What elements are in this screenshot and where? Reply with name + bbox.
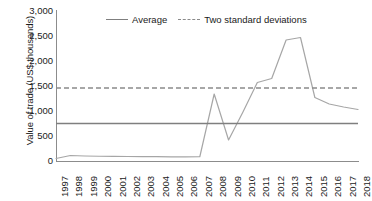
x-tick-label: 2018 bbox=[362, 176, 372, 197]
x-tick-label: 2013 bbox=[290, 176, 300, 197]
legend-entry: Average bbox=[106, 14, 167, 25]
x-tick-label: 2012 bbox=[276, 176, 286, 197]
x-tick-label: 2006 bbox=[189, 176, 199, 197]
y-tick-label: 1,000 bbox=[15, 106, 53, 116]
y-tick-label: 0 bbox=[15, 156, 53, 166]
x-axis-tick-labels: 1997199819992000200120022003200420052006… bbox=[56, 163, 358, 201]
plot-svg bbox=[56, 11, 358, 161]
x-tick-label: 1997 bbox=[60, 176, 70, 197]
x-tick-label: 2015 bbox=[319, 176, 329, 197]
y-tick-label: 3,000 bbox=[15, 6, 53, 16]
legend-swatch-solid-icon bbox=[106, 19, 128, 20]
legend-entry: Two standard deviations bbox=[178, 14, 306, 25]
x-tick-label: 2003 bbox=[146, 176, 156, 197]
x-tick-label: 2007 bbox=[204, 176, 214, 197]
legend-label: Two standard deviations bbox=[204, 14, 306, 25]
x-tick-label: 1999 bbox=[89, 176, 99, 197]
x-tick-label: 2011 bbox=[261, 177, 271, 197]
y-axis-tick-labels: 05001,0001,5002,0002,5003,000 bbox=[13, 0, 53, 201]
legend-label: Average bbox=[132, 14, 167, 25]
x-tick-label: 2000 bbox=[103, 176, 113, 197]
x-tick-label: 2014 bbox=[304, 176, 314, 197]
plot-area bbox=[56, 11, 358, 161]
series-line-value-of-trade bbox=[56, 38, 358, 159]
x-tick-label: 2008 bbox=[218, 176, 228, 197]
y-tick-label: 2,000 bbox=[15, 56, 53, 66]
x-tick-label: 2017 bbox=[348, 176, 358, 197]
y-tick-label: 500 bbox=[15, 131, 53, 141]
x-tick-label: 2010 bbox=[247, 176, 257, 197]
x-axis-line bbox=[56, 161, 359, 162]
chart-legend: AverageTwo standard deviations bbox=[106, 14, 307, 25]
x-tick-label: 2002 bbox=[132, 176, 142, 197]
x-tick-label: 2001 bbox=[118, 176, 128, 197]
legend-swatch-dashed-icon bbox=[178, 19, 200, 20]
x-tick-label: 1998 bbox=[74, 176, 84, 197]
x-tick-label: 2004 bbox=[161, 176, 171, 197]
x-tick-label: 2009 bbox=[233, 176, 243, 197]
y-tick-label: 1,500 bbox=[15, 81, 53, 91]
y-tick-label: 2,500 bbox=[15, 31, 53, 41]
x-tick-label: 2016 bbox=[333, 176, 343, 197]
x-tick-label: 2005 bbox=[175, 176, 185, 197]
